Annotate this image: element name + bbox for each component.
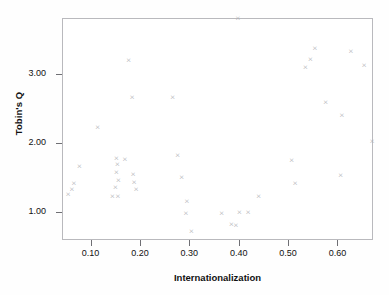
- data-point: [347, 47, 354, 56]
- data-point: [94, 123, 101, 132]
- data-point: [307, 55, 314, 64]
- data-point: [183, 197, 190, 206]
- data-point: [188, 227, 195, 236]
- x-axis-tick: [288, 240, 289, 246]
- y-axis-tick-label: 3.00: [12, 68, 46, 78]
- data-point: [76, 162, 83, 171]
- data-point: [112, 183, 119, 192]
- x-axis-tick-label: 0.40: [219, 248, 259, 258]
- plot-area: [62, 18, 373, 240]
- data-point: [129, 93, 136, 102]
- data-point: [311, 44, 318, 53]
- y-axis-tick: [56, 74, 62, 75]
- data-point: [109, 192, 116, 201]
- x-axis-tick: [140, 240, 141, 246]
- x-axis-tick-label: 0.10: [71, 248, 111, 258]
- data-point: [292, 179, 299, 188]
- data-point: [64, 190, 71, 199]
- data-point: [113, 168, 120, 177]
- y-axis-tick-label: 1.00: [12, 206, 46, 216]
- data-point: [234, 14, 241, 23]
- data-point: [361, 61, 368, 70]
- scatter-plot-figure: Tobin's Q Internationalization 1.002.003…: [0, 0, 389, 295]
- x-axis-tick-label: 0.60: [317, 248, 357, 258]
- y-axis-tick-label: 2.00: [12, 137, 46, 147]
- x-axis-title: Internationalization: [62, 272, 373, 283]
- data-point: [115, 176, 122, 185]
- y-axis-tick: [56, 143, 62, 144]
- data-point: [369, 137, 376, 146]
- data-point: [114, 160, 121, 169]
- data-point: [125, 56, 132, 65]
- data-point: [130, 170, 137, 179]
- data-point: [182, 209, 189, 218]
- data-point: [232, 221, 239, 230]
- data-point: [337, 171, 344, 180]
- x-axis-tick: [189, 240, 190, 246]
- data-point: [133, 185, 140, 194]
- data-point: [236, 208, 243, 217]
- data-point: [174, 151, 181, 160]
- data-point: [322, 98, 329, 107]
- data-point: [169, 93, 176, 102]
- data-point: [228, 220, 235, 229]
- x-axis-tick: [239, 240, 240, 246]
- y-axis-tick: [56, 212, 62, 213]
- x-axis-tick-label: 0.20: [120, 248, 160, 258]
- data-point: [255, 192, 262, 201]
- x-axis-tick: [337, 240, 338, 246]
- data-point: [302, 63, 309, 72]
- data-point: [114, 192, 121, 201]
- data-point: [113, 154, 120, 163]
- x-axis-tick: [91, 240, 92, 246]
- x-axis-tick-label: 0.30: [169, 248, 209, 258]
- data-point: [70, 179, 77, 188]
- data-point: [131, 178, 138, 187]
- data-point: [338, 111, 345, 120]
- data-point: [68, 185, 75, 194]
- x-axis-tick-label: 0.50: [268, 248, 308, 258]
- data-point: [218, 209, 225, 218]
- data-point: [288, 156, 295, 165]
- data-point: [121, 155, 128, 164]
- data-point: [178, 173, 185, 182]
- data-point: [245, 208, 252, 217]
